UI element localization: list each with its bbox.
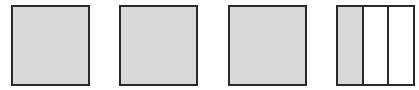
unshaded-third	[362, 7, 388, 84]
whole-square-1	[11, 5, 90, 86]
square-thirds	[338, 7, 413, 84]
divided-square	[336, 5, 415, 86]
unshaded-third	[387, 7, 413, 84]
whole-square-3	[228, 5, 307, 86]
shaded-third	[338, 7, 362, 84]
whole-square-2	[119, 5, 198, 86]
